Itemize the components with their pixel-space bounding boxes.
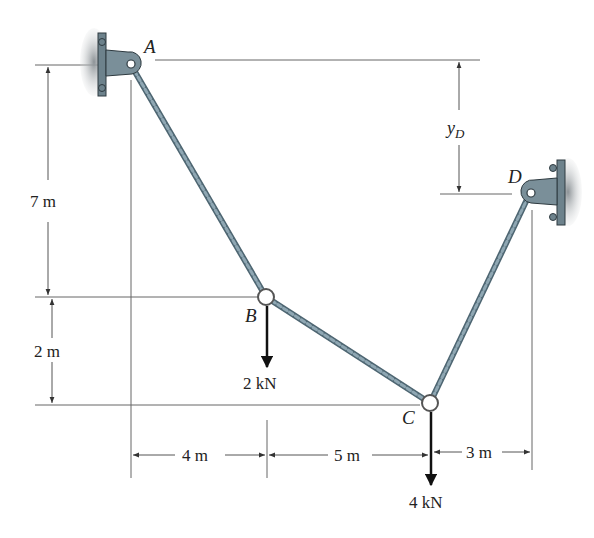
dimension-3m: 3 m xyxy=(434,443,530,462)
dimension-7m: 7 m xyxy=(30,67,56,295)
dimension-label-5m: 5 m xyxy=(334,446,360,465)
point-label-D: D xyxy=(507,166,522,187)
dimension-5m: 5 m xyxy=(269,446,428,465)
load-label-B: 2 kN xyxy=(243,374,277,393)
dimension-label-3m: 3 m xyxy=(466,443,492,462)
point-label-B: B xyxy=(245,305,257,326)
dimension-label-7m: 7 m xyxy=(30,192,56,211)
dimension-label-2m: 2 m xyxy=(34,342,60,361)
point-label-C: C xyxy=(402,407,415,428)
point-label-A: A xyxy=(142,36,156,57)
dimension-label-4m: 4 m xyxy=(182,446,208,465)
dimension-4m: 4 m xyxy=(133,446,265,465)
dimension-2m: 2 m xyxy=(34,299,60,403)
cable xyxy=(131,65,530,403)
extension-lines xyxy=(35,60,532,478)
load-label-C: 4 kN xyxy=(409,493,443,512)
cable-diagram: 7 m 2 m yD 4 m 5 m 3 m xyxy=(0,0,594,538)
dimension-yD: yD xyxy=(445,62,465,192)
dimension-label-yD: yD xyxy=(445,118,465,141)
ring-B: B xyxy=(245,289,274,326)
